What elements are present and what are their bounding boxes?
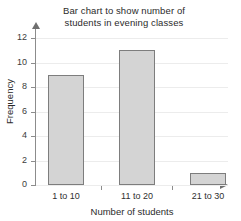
x-axis-category-label: 21 to 30	[178, 191, 238, 201]
chart-title: Bar chart to show number of students in …	[34, 5, 214, 29]
y-axis-arrow-icon	[32, 22, 40, 29]
y-axis-tick-label: 12	[5, 32, 27, 42]
x-axis-category-label: 11 to 20	[107, 191, 167, 201]
y-axis-tick-label: 0	[5, 179, 27, 189]
plot-area	[36, 32, 228, 185]
x-axis-title: Number of students	[36, 206, 228, 217]
bar-21-to-30	[190, 173, 226, 185]
x-axis-category-label: 1 to 10	[36, 191, 96, 201]
y-axis-title: Frequency	[4, 62, 15, 142]
bar-1-to-10	[48, 75, 84, 185]
chart-title-line-2: students in evening classes	[34, 17, 214, 29]
bar-11-to-20	[119, 50, 155, 185]
chart-title-line-1: Bar chart to show number of	[34, 5, 214, 17]
x-axis-tick-2	[172, 186, 173, 190]
y-axis-tick-label: 2	[5, 155, 27, 165]
x-axis-tick-1	[101, 186, 102, 190]
bar-chart-figure: Bar chart to show number of students in …	[0, 0, 241, 221]
y-axis-tick	[31, 185, 36, 186]
gridline	[36, 185, 228, 186]
